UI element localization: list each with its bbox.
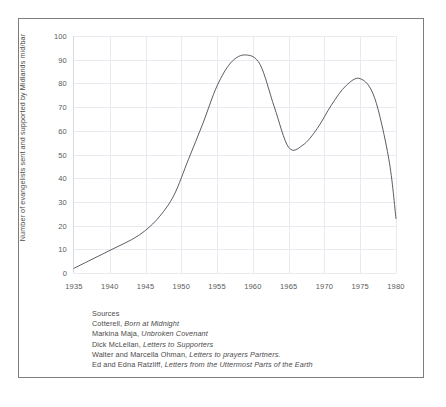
sources-block: Sources Cotterell, Born at MidnightMarki… <box>92 309 313 370</box>
series-path <box>74 55 396 268</box>
gridline-vertical <box>396 36 397 273</box>
y-tick-label: 0 <box>63 269 67 278</box>
source-title: Born at Midnight <box>124 319 179 328</box>
source-author: Markina Maja, <box>92 329 141 338</box>
x-tick-label: 1945 <box>137 282 155 291</box>
y-tick-label: 50 <box>58 150 67 159</box>
source-entry: Ed and Edna Ratzliff, Letters from the U… <box>92 360 313 370</box>
y-tick-label: 10 <box>58 245 67 254</box>
source-title: Letters to prayers Partners. <box>189 350 280 359</box>
y-tick-label: 90 <box>58 55 67 64</box>
x-tick-label: 1935 <box>65 282 83 291</box>
x-tick-label: 1965 <box>280 282 298 291</box>
y-tick-label: 70 <box>58 103 67 112</box>
source-title: Letters to Supporters <box>143 340 213 349</box>
y-tick-label: 100 <box>54 32 67 41</box>
chart-figure-frame: Number of evangelists sent and supported… <box>18 18 424 378</box>
sources-list: Cotterell, Born at MidnightMarkina Maja,… <box>92 319 313 370</box>
sources-heading: Sources <box>92 309 313 319</box>
source-entry: Markina Maja, Unbroken Covenant <box>92 329 313 339</box>
source-title: Letters from the Uttermost Parts of the … <box>165 360 313 369</box>
y-tick-label: 60 <box>58 126 67 135</box>
series-line-evangelists <box>74 36 396 273</box>
x-tick-label: 1960 <box>244 282 262 291</box>
source-entry: Walter and Marcella Ohman, Letters to pr… <box>92 350 313 360</box>
source-entry: Dick McLellan, Letters to Supporters <box>92 340 313 350</box>
source-author: Cotterell, <box>92 319 124 328</box>
x-tick-label: 1950 <box>173 282 191 291</box>
x-tick-label: 1940 <box>101 282 119 291</box>
y-axis-title-text: Number of evangelists sent and supported… <box>19 34 28 241</box>
source-author: Walter and Marcella Ohman, <box>92 350 189 359</box>
x-tick-label: 1970 <box>316 282 334 291</box>
plot-area: 1009080706050403020100 19351940194519501… <box>74 36 396 273</box>
y-axis-title: Number of evangelists sent and supported… <box>17 19 29 256</box>
x-tick-label: 1975 <box>351 282 369 291</box>
source-author: Ed and Edna Ratzliff, <box>92 360 165 369</box>
source-entry: Cotterell, Born at Midnight <box>92 319 313 329</box>
y-tick-label: 40 <box>58 174 67 183</box>
gridline-horizontal <box>74 273 396 274</box>
x-tick-label: 1955 <box>208 282 226 291</box>
source-author: Dick McLellan, <box>92 340 143 349</box>
x-tick-label: 1980 <box>387 282 405 291</box>
source-title: Unbroken Covenant <box>141 329 208 338</box>
y-tick-label: 30 <box>58 197 67 206</box>
y-tick-label: 20 <box>58 221 67 230</box>
y-tick-label: 80 <box>58 79 67 88</box>
